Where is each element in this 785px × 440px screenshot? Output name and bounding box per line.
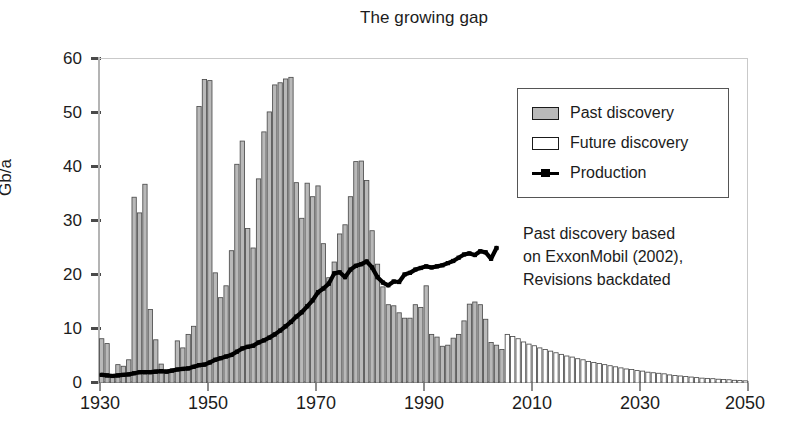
bar-1950 bbox=[208, 81, 212, 383]
production-marker-1937 bbox=[137, 370, 141, 374]
bar-1963 bbox=[278, 83, 282, 383]
bar-2027 bbox=[624, 369, 628, 383]
x-tick-label-1950: 1950 bbox=[168, 394, 248, 412]
production-marker-1985 bbox=[397, 280, 401, 284]
production-marker-1990 bbox=[424, 264, 428, 268]
bar-2048 bbox=[738, 381, 742, 383]
x-tick-label-2050: 2050 bbox=[705, 394, 785, 412]
production-marker-1941 bbox=[159, 369, 163, 373]
bar-2007 bbox=[516, 339, 520, 383]
x-tick-1950 bbox=[207, 383, 209, 391]
production-marker-1974 bbox=[338, 270, 342, 274]
bar-1991 bbox=[429, 334, 433, 383]
production-marker-1943 bbox=[170, 368, 174, 372]
bar-1976 bbox=[348, 197, 352, 383]
bar-1999 bbox=[473, 302, 477, 383]
bar-1944 bbox=[175, 341, 179, 383]
bar-2038 bbox=[684, 377, 688, 383]
annotation-line-1: Past discovery based bbox=[523, 222, 753, 245]
production-line-swatch-icon bbox=[532, 167, 559, 180]
y-tick-label-50: 50 bbox=[40, 104, 82, 121]
production-marker-2002 bbox=[489, 257, 493, 261]
bar-1948 bbox=[197, 107, 201, 383]
bar-1945 bbox=[181, 348, 185, 383]
bar-2033 bbox=[657, 373, 661, 383]
legend-item-future-discovery[interactable]: Future discovery bbox=[518, 128, 728, 158]
production-marker-1984 bbox=[392, 279, 396, 283]
bar-2044 bbox=[716, 379, 720, 383]
bar-2008 bbox=[521, 342, 525, 383]
production-marker-2000 bbox=[478, 249, 482, 253]
production-marker-1970 bbox=[316, 290, 320, 294]
bar-1936 bbox=[132, 197, 136, 383]
bar-1958 bbox=[251, 248, 255, 383]
bar-2002 bbox=[489, 343, 493, 384]
bar-1978 bbox=[359, 161, 363, 383]
bar-1996 bbox=[456, 334, 460, 383]
bar-2011 bbox=[538, 348, 542, 383]
production-marker-1953 bbox=[224, 354, 228, 358]
production-marker-1981 bbox=[375, 275, 379, 279]
production-marker-1994 bbox=[446, 261, 450, 265]
bar-1940 bbox=[154, 340, 158, 383]
bar-1952 bbox=[219, 298, 223, 383]
bar-2041 bbox=[700, 378, 704, 383]
bar-2019 bbox=[581, 360, 585, 383]
bar-2045 bbox=[721, 379, 725, 383]
production-marker-1968 bbox=[305, 304, 309, 308]
past-discovery-swatch-icon bbox=[532, 107, 559, 120]
production-marker-1988 bbox=[413, 268, 417, 272]
production-marker-1989 bbox=[419, 266, 423, 270]
bar-2024 bbox=[608, 366, 612, 383]
production-marker-1936 bbox=[132, 371, 136, 375]
bar-1935 bbox=[127, 360, 131, 383]
production-marker-1965 bbox=[289, 320, 293, 324]
bar-1971 bbox=[321, 244, 325, 383]
bar-1953 bbox=[224, 286, 228, 383]
production-marker-1979 bbox=[365, 259, 369, 263]
bar-1986 bbox=[402, 318, 406, 383]
production-marker-1987 bbox=[408, 271, 412, 275]
bar-1985 bbox=[397, 313, 401, 383]
legend-item-past-discovery[interactable]: Past discovery bbox=[518, 98, 728, 128]
production-marker-1934 bbox=[121, 373, 125, 377]
bar-2046 bbox=[727, 380, 731, 383]
production-marker-1973 bbox=[332, 271, 336, 275]
production-marker-1975 bbox=[343, 275, 347, 279]
bar-2042 bbox=[705, 378, 709, 383]
bar-1961 bbox=[267, 112, 271, 383]
bar-1993 bbox=[440, 346, 444, 383]
production-marker-1959 bbox=[256, 340, 260, 344]
production-marker-1980 bbox=[370, 265, 374, 269]
x-tick-1990 bbox=[423, 383, 425, 391]
bar-2015 bbox=[559, 354, 563, 383]
bar-1962 bbox=[273, 85, 277, 383]
legend-item-production[interactable]: Production bbox=[518, 158, 728, 188]
bar-1974 bbox=[338, 234, 342, 383]
bar-1941 bbox=[159, 364, 163, 383]
production-marker-1933 bbox=[116, 373, 120, 377]
bar-1959 bbox=[256, 179, 260, 383]
chart-annotation: Past discovery based on ExxonMobil (2002… bbox=[523, 222, 753, 291]
bar-2014 bbox=[554, 353, 558, 383]
production-marker-1969 bbox=[311, 298, 315, 302]
bar-1981 bbox=[375, 264, 379, 383]
bar-2018 bbox=[575, 359, 579, 383]
bar-1977 bbox=[354, 162, 358, 383]
bar-1988 bbox=[413, 305, 417, 383]
production-marker-1962 bbox=[273, 332, 277, 336]
bar-2035 bbox=[667, 375, 671, 383]
production-marker-2003 bbox=[494, 246, 498, 250]
future-discovery-swatch-icon bbox=[532, 137, 559, 150]
production-marker-1977 bbox=[354, 264, 358, 268]
bar-1980 bbox=[370, 231, 374, 383]
bar-2003 bbox=[494, 345, 498, 383]
production-marker-1958 bbox=[251, 344, 255, 348]
production-marker-1960 bbox=[262, 338, 266, 342]
production-marker-1971 bbox=[321, 286, 325, 290]
bar-1946 bbox=[186, 334, 190, 383]
bar-2012 bbox=[543, 350, 547, 383]
scan-edge-artifact bbox=[0, 436, 785, 440]
production-marker-1986 bbox=[402, 272, 406, 276]
production-marker-1938 bbox=[143, 370, 147, 374]
